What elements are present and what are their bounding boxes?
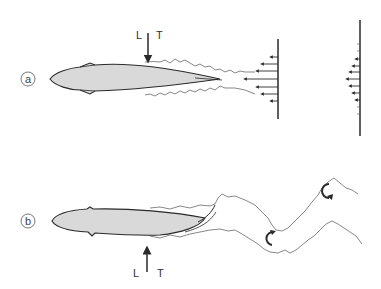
flexing-body-b xyxy=(52,207,205,236)
panel-b-label: b xyxy=(21,214,35,228)
wake-lower-line xyxy=(145,86,255,96)
svg-text:L: L xyxy=(136,29,142,41)
force-arrow-up: L T xyxy=(133,250,164,279)
svg-text:L: L xyxy=(133,267,139,279)
far-wake-velocity-profile xyxy=(347,20,360,136)
svg-text:a: a xyxy=(25,73,32,85)
panel-a: a L T xyxy=(21,20,360,136)
vortex-lower-icon xyxy=(266,230,276,245)
wake-velocity-profile xyxy=(245,39,278,119)
svg-text:T: T xyxy=(156,29,163,41)
panel-b: b L T xyxy=(21,178,362,279)
svg-text:b: b xyxy=(25,215,31,227)
svg-text:T: T xyxy=(157,267,164,279)
streamlined-body-a xyxy=(50,63,220,94)
panel-a-label: a xyxy=(21,72,35,86)
diagram: a L T xyxy=(0,0,381,289)
vortex-upper-icon xyxy=(322,184,333,200)
force-arrow-down: L T xyxy=(136,29,163,59)
